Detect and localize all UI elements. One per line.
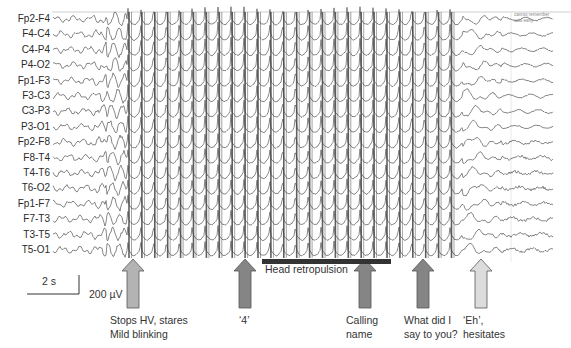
eeg-trace: [53, 37, 553, 57]
event-caption: Calling name: [346, 313, 378, 341]
head-retropulsion-label: Head retropulsion: [265, 263, 348, 275]
eeg-trace: [53, 179, 553, 196]
channel-label: F7-T3: [23, 213, 50, 225]
top-right-note: cannot remember said early: [514, 12, 549, 23]
eeg-trace: [53, 114, 553, 133]
event-arrow-icon: [234, 259, 256, 308]
eeg-trace: [53, 133, 553, 150]
event-arrow-icon: [354, 259, 376, 308]
channel-label: T5-O1: [22, 244, 50, 256]
channel-label: Fp1-F7: [18, 198, 50, 210]
eeg-trace: [53, 210, 553, 226]
eeg-trace: [53, 226, 553, 241]
channel-label: T6-O2: [22, 182, 50, 194]
channel-label: Fp1-F3: [18, 75, 50, 87]
channel-label: C4-P4: [22, 44, 50, 56]
time-scale-label: 2 s: [42, 275, 56, 287]
eeg-trace: [53, 22, 553, 40]
event-arrow-icon: [122, 259, 144, 308]
eeg-trace: [53, 7, 553, 26]
eeg-trace: [53, 148, 553, 165]
eeg-traces: [0, 0, 571, 348]
event-arrow-icon: [470, 259, 492, 308]
event-caption: What did I say to you?: [404, 313, 458, 341]
channel-label: C3-P3: [22, 105, 50, 117]
channel-label: Fp2-F4: [18, 13, 50, 25]
eeg-trace: [53, 99, 553, 118]
eeg-trace: [53, 241, 553, 257]
event-caption: ‘4’: [239, 313, 250, 327]
event-arrow-icon: [412, 259, 434, 308]
event-caption: Stops HV, stares Mild blinking: [110, 313, 188, 341]
event-caption: ‘Eh’, hesitates: [463, 313, 505, 341]
channel-label: T3-T5: [23, 229, 50, 241]
eeg-trace: [53, 194, 553, 211]
channel-label: F4-C4: [22, 28, 50, 40]
channel-label: F3-C3: [22, 90, 50, 102]
amplitude-scale-label: 200 µV: [89, 288, 123, 300]
channel-label: Fp2-F8: [18, 136, 50, 148]
eeg-trace: [53, 164, 553, 181]
channel-label: P4-O2: [21, 59, 50, 71]
channel-label: P3-O1: [21, 121, 50, 133]
channel-label: T4-T6: [23, 167, 50, 179]
eeg-trace: [53, 53, 553, 72]
channel-label: F8-T4: [23, 152, 50, 164]
